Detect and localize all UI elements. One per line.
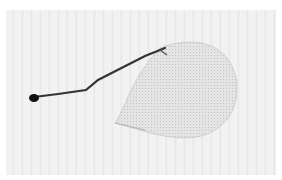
photo-frame: [0, 0, 282, 180]
wing-base: [29, 94, 39, 102]
wing-illustration: [0, 0, 282, 180]
